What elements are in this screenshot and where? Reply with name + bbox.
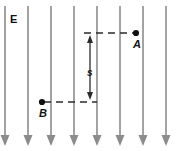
separation-label-s: s <box>87 67 93 78</box>
separation-arrowhead-down <box>87 92 93 100</box>
field-line-arrowhead-4 <box>70 135 79 146</box>
field-line-arrowhead-6 <box>116 135 125 146</box>
field-label-E: E <box>10 13 17 25</box>
field-line-arrowhead-8 <box>162 135 171 146</box>
separation-arrowhead-up <box>87 35 93 43</box>
field-line-arrowhead-1 <box>1 135 10 146</box>
field-line-arrowhead-5 <box>93 135 102 146</box>
separation-measure-group: s <box>87 35 93 100</box>
point-label-a: A <box>132 38 141 50</box>
point-dot-a <box>133 30 139 36</box>
point-label-b: B <box>39 107 47 119</box>
electric-field-diagram: s AB E <box>0 0 188 151</box>
field-lines-group <box>1 6 171 146</box>
point-dot-b <box>39 99 45 105</box>
field-line-arrowhead-2 <box>24 135 33 146</box>
field-line-arrowhead-3 <box>47 135 56 146</box>
figure-container: s AB E <box>0 0 188 151</box>
field-line-arrowhead-7 <box>139 135 148 146</box>
